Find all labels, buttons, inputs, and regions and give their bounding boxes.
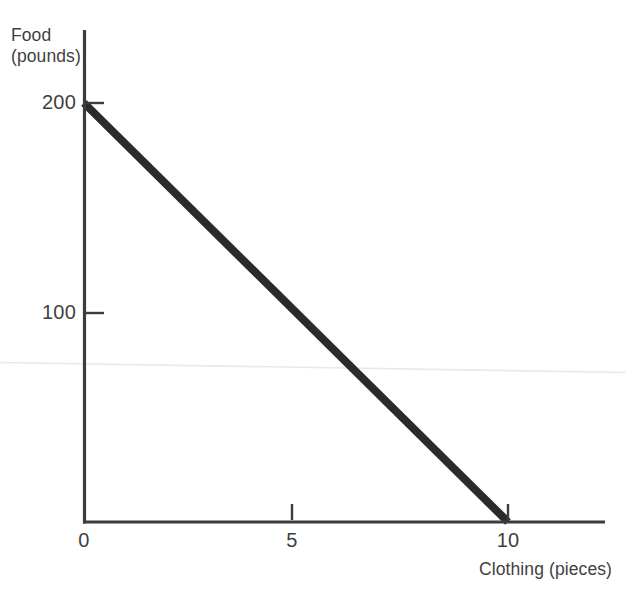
x-tick-label-5: 5 xyxy=(268,529,316,552)
x-tick-label-10: 10 xyxy=(484,529,532,552)
ppf-line xyxy=(84,103,508,522)
y-axis-title: Food (pounds) xyxy=(11,25,81,67)
x-tick-label-0: 0 xyxy=(60,529,108,552)
y-tick-label-100: 100 xyxy=(24,301,76,324)
y-axis-title-line-2: (pounds) xyxy=(11,46,81,67)
chart-plot-area xyxy=(0,0,626,608)
chart-figure: Food (pounds) Clothing (pieces) 200 100 … xyxy=(0,0,626,608)
y-axis-title-line-1: Food xyxy=(11,25,81,46)
scan-fold-line xyxy=(0,363,626,373)
y-tick-label-200: 200 xyxy=(24,91,76,114)
x-axis-title: Clothing (pieces) xyxy=(479,559,612,580)
